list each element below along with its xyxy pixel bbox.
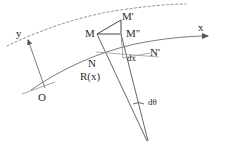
dx-label: dx: [127, 54, 136, 63]
y-axis-label: y: [16, 28, 22, 39]
x-axis-label: x: [198, 22, 204, 33]
point-label-n-prime: N': [150, 47, 160, 58]
point-label-n: N: [88, 58, 96, 69]
dtheta-label: dθ: [148, 98, 157, 107]
point-label-m-double-prime: M": [126, 28, 140, 39]
point-label-m: M: [85, 28, 95, 39]
point-label-m-prime: M': [122, 11, 134, 22]
radius-label: R(x): [80, 71, 100, 82]
radius-line-mpp: [121, 34, 148, 141]
geometry-figure: y x O M M' M" N N' R(x) dx dθ: [0, 0, 226, 155]
figure-canvas: [0, 0, 226, 155]
y-axis: [28, 40, 45, 88]
origin-label: O: [38, 92, 46, 103]
segment-m-to-mprime: [97, 20, 121, 34]
